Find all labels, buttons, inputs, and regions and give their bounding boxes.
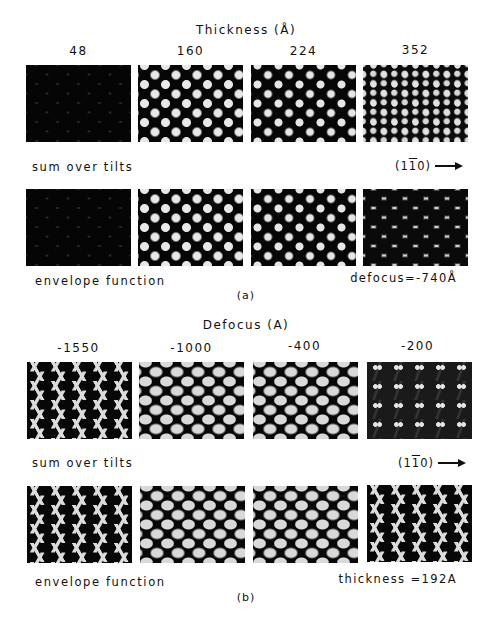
figure-a-title: Thickness (Å): [146, 23, 346, 37]
orientation-indicator: (110): [398, 456, 464, 470]
orientation-suffix: 0): [420, 456, 434, 470]
subfigure-label-b: (b): [226, 591, 266, 604]
subfigure-label-a: (a): [226, 289, 266, 302]
fixed-parameter-defocus: defocus=-740Å: [307, 271, 457, 285]
row-label-sum-over-tilts: sum over tilts: [32, 160, 133, 174]
orientation-indicator: (110): [395, 159, 461, 173]
image-panel: [26, 65, 131, 142]
image-panel: [251, 65, 356, 142]
figure-b-column-label: -1000: [139, 341, 244, 355]
image-panel: [363, 65, 468, 142]
orientation-suffix: 0): [417, 159, 431, 173]
orientation-barred-index: 1: [412, 456, 420, 470]
arrow-right-icon: [435, 165, 461, 167]
image-panel: [27, 362, 132, 439]
fixed-parameter-thickness: thickness =192A: [307, 572, 457, 586]
image-panel: [138, 189, 243, 266]
image-panel: [27, 486, 132, 563]
figure-b-column-label: -400: [252, 339, 357, 353]
image-panel: [367, 485, 472, 562]
figure-a-column-label: 160: [138, 44, 243, 58]
image-panel: [138, 65, 243, 142]
figure-b-title: Defocus (A): [146, 318, 346, 332]
image-panel: [251, 189, 356, 266]
row-label-sum-over-tilts: sum over tilts: [32, 456, 133, 470]
image-panel: [139, 362, 244, 439]
figure-a-column-label: 352: [363, 43, 468, 57]
figure-a-column-label: 48: [26, 44, 131, 58]
image-panel: [140, 486, 245, 563]
orientation-prefix: (1: [398, 456, 412, 470]
image-panel: [367, 362, 472, 439]
figure-b-column-label: -200: [365, 339, 470, 353]
figure-a-column-label: 224: [251, 44, 356, 58]
row-label-envelope-function: envelope function: [35, 274, 166, 288]
arrow-right-icon: [438, 462, 464, 464]
row-label-envelope-function: envelope function: [35, 575, 166, 589]
image-panel: [363, 189, 468, 266]
image-panel: [253, 486, 358, 563]
orientation-prefix: (1: [395, 159, 409, 173]
orientation-barred-index: 1: [409, 159, 417, 173]
image-panel: [253, 362, 358, 439]
image-panel: [26, 189, 131, 266]
figure-b-column-label: -1550: [26, 341, 131, 355]
